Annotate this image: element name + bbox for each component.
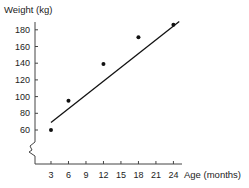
x-axis-label: Age (months) [184,169,241,180]
y-tick-label: 120 [15,75,30,85]
plot-area [49,21,179,132]
y-tick-label: 80 [20,108,30,118]
x-tick-label: 9 [83,170,88,180]
x-axis: 3691215182124 [35,161,182,180]
trend-line [51,21,179,122]
y-axis-label: Weight (kg) [4,4,52,15]
data-point [66,99,70,103]
data-point [101,62,105,66]
x-tick-label: 21 [151,170,161,180]
y-axis: 6080100120140160180 [15,22,38,164]
x-tick-label: 3 [48,170,53,180]
x-tick-label: 18 [133,170,143,180]
x-tick-label: 12 [98,170,108,180]
y-tick-label: 60 [20,125,30,135]
scatter-chart: Weight (kg) 6080100120140160180 36912151… [0,0,249,188]
y-tick-label: 140 [15,58,30,68]
y-tick-label: 160 [15,42,30,52]
data-point [49,128,53,132]
y-tick-label: 180 [15,25,30,35]
x-tick-label: 24 [168,170,178,180]
x-tick-label: 6 [66,170,71,180]
data-point [136,35,140,39]
y-tick-label: 100 [15,92,30,102]
x-tick-label: 15 [116,170,126,180]
